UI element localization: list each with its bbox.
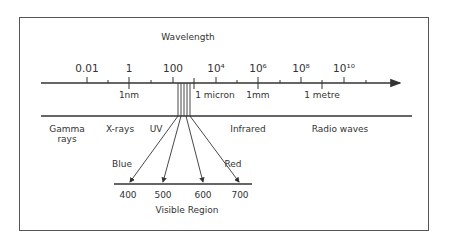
unit-label-1nm: 1nm <box>119 90 139 100</box>
scale-label-1e8: 10⁸ <box>292 62 310 74</box>
region-gamma-rays: rays <box>57 134 77 144</box>
region-infrared: Infrared <box>230 124 266 134</box>
axis-title: Wavelength <box>161 32 214 42</box>
scale-label-1: 1 <box>126 62 133 74</box>
visible-band-lines <box>178 83 190 116</box>
scale-label-1e10: 10¹⁰ <box>333 62 355 74</box>
label-red: Red <box>224 159 241 169</box>
region-radio: Radio waves <box>312 124 369 134</box>
visible-tick-600: 600 <box>194 190 211 200</box>
unit-labels: 1nm 1 micron 1mm 1 metre <box>119 90 340 100</box>
scale-labels: 0.01 1 100 10⁴ 10⁶ 10⁸ 10¹⁰ <box>75 62 355 74</box>
scale-label-100: 100 <box>163 62 183 74</box>
label-blue: Blue <box>112 159 132 169</box>
visible-ticks: 400 500 600 700 <box>119 190 248 200</box>
unit-label-1micron: 1 micron <box>195 90 235 100</box>
visible-region-caption: Visible Region <box>155 205 218 215</box>
spectrum-diagram: Wavelength 0.01 1 100 10⁴ 10⁶ 10⁸ 10¹⁰ 1… <box>0 0 449 239</box>
region-xrays: X-rays <box>106 124 135 134</box>
visible-tick-700: 700 <box>231 190 248 200</box>
region-gamma: Gamma <box>49 124 85 134</box>
unit-label-1mm: 1mm <box>246 90 269 100</box>
unit-label-1metre: 1 metre <box>304 90 340 100</box>
scale-label-1e4: 10⁴ <box>207 62 225 74</box>
visible-tick-400: 400 <box>119 190 136 200</box>
visible-arrows <box>130 116 239 182</box>
scale-label-1e6: 10⁶ <box>249 62 267 74</box>
scale-label-0.01: 0.01 <box>75 62 98 74</box>
visible-tick-500: 500 <box>154 190 171 200</box>
region-uv: UV <box>150 124 164 134</box>
